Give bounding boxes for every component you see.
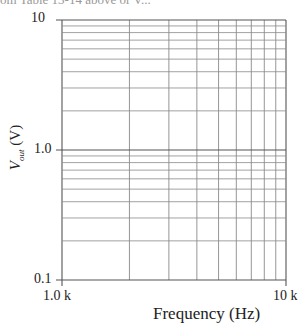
x-tick-label-1k: 1.0 k (43, 288, 71, 304)
y-label-subscript: out (16, 149, 26, 161)
grid-lines (56, 20, 286, 286)
y-tick-label-1: 1.0 (34, 141, 52, 157)
x-axis-label: Frequency (Hz) (153, 304, 260, 324)
x-tick-label-10k: 10 k (273, 288, 298, 304)
y-axis-label: Vout (V) (7, 125, 26, 170)
y-tick-label-0-1: 0.1 (34, 271, 52, 287)
y-label-unit: (V) (7, 125, 23, 146)
y-tick-label-10: 10 (31, 10, 45, 26)
y-label-symbol: V (7, 161, 23, 170)
